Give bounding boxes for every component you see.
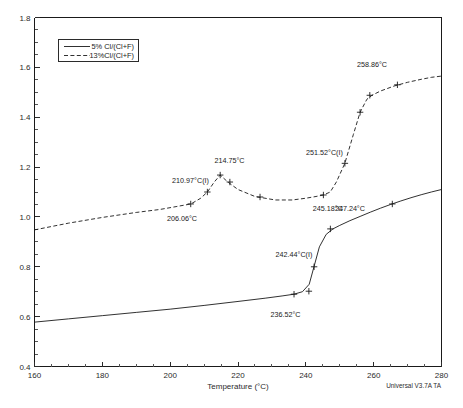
x-tick-label: 280 <box>435 371 449 380</box>
annotation-5: 258.86°C <box>357 60 387 69</box>
x-tick-label: 260 <box>367 371 381 380</box>
y-tick-label: 0.8 <box>19 263 31 272</box>
annotation-1: 210.97°C(I) <box>172 176 209 185</box>
x-tick-label: 200 <box>163 371 177 380</box>
annotation-2: 214.75°C <box>214 156 244 165</box>
y-tick-label: 1.2 <box>19 163 31 172</box>
dsc-chart: 0.40.60.81.01.21.41.61.8 160180200220240… <box>0 0 463 408</box>
annotation-7: 242.44°C(I) <box>276 250 313 259</box>
annotation-0: 206.06°C <box>167 214 197 223</box>
software-note: Universal V3.7A TA <box>386 382 442 389</box>
x-tick-label: 160 <box>28 371 42 380</box>
x-axis-title: Temperature (°C) <box>207 382 269 391</box>
annotation-6: 236.52°C <box>270 310 300 319</box>
x-tick-label: 180 <box>96 371 110 380</box>
legend-label-0: 5% Cl/(Cl+F) <box>92 42 135 51</box>
chart-legend[interactable]: 5% Cl/(Cl+F) 13%Cl/(Cl+F) <box>59 40 139 62</box>
annotation-8: 247.24°C <box>335 204 365 213</box>
annotation-4: 251.52°C(I) <box>306 148 343 157</box>
y-tick-label: 1.6 <box>19 63 31 72</box>
y-tick-label: 1.4 <box>19 113 31 122</box>
y-tick-label: 1.8 <box>19 14 31 23</box>
legend-label-1: 13%Cl/(Cl+F) <box>89 51 134 60</box>
x-tick-label: 240 <box>299 371 313 380</box>
y-tick-label: 0.6 <box>19 313 31 322</box>
thermal-analysis-figure: 0.40.60.81.01.21.41.61.8 160180200220240… <box>0 0 463 408</box>
x-tick-label: 220 <box>231 371 245 380</box>
y-tick-label: 1.0 <box>19 213 31 222</box>
